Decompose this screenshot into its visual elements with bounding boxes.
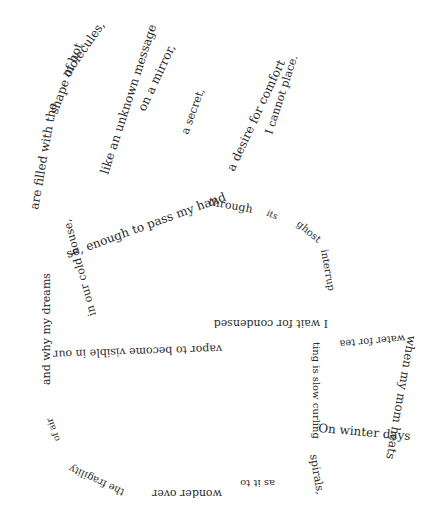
- poem-phrase-a-secret: a secret,: [179, 86, 208, 136]
- poem-phrase-spirals: spirals,: [307, 453, 327, 495]
- poem-phrase-and-why-my-dreams: and why my dreams: [40, 273, 53, 385]
- poem-phrase-of-air: of air: [44, 416, 62, 443]
- concrete-poem: are filled with theshape of hotmolecules…: [0, 0, 444, 529]
- poem-phrase-are-filled: are filled with the: [27, 102, 60, 211]
- poem-phrase-enough-to-pass: se, enough to pass my hand: [64, 190, 228, 261]
- poem-phrase-molecules: molecules,: [59, 19, 108, 80]
- poem-phrase-the-fragility: the fragility: [67, 463, 126, 498]
- poem-phrase-water-for-tea: water for tea: [339, 333, 406, 350]
- poem-phrase-ting-is-slow: ting is slow curling: [311, 342, 322, 439]
- poem-phrase-ghost: ghost: [295, 218, 324, 244]
- poem-phrase-cold-house: in our cold house,: [60, 218, 98, 318]
- poem-phrase-as-it-to: as it to: [240, 478, 275, 489]
- poem-phrase-interrup: interrup: [319, 248, 337, 291]
- poem-phrase-i-wait: I wait for condensed: [214, 317, 328, 330]
- poem-phrase-through: through: [207, 195, 253, 216]
- poem-phrase-visible: vapor to become visible in our: [52, 342, 223, 361]
- poem-phrase-wonder-over: wonder over: [151, 487, 222, 500]
- poem-phrase-its: its: [265, 208, 280, 222]
